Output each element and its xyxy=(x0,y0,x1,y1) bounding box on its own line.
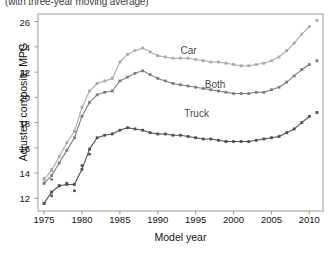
series-marker-truck xyxy=(232,140,235,143)
series-marker-truck xyxy=(240,140,243,143)
series-marker-both xyxy=(164,80,167,83)
series-marker-car xyxy=(278,56,281,59)
series-marker-both xyxy=(111,90,114,93)
series-marker-truck xyxy=(88,148,91,151)
series-marker-car xyxy=(65,141,68,144)
series-marker-both xyxy=(262,91,265,94)
series-marker-car xyxy=(118,61,121,64)
series-marker-car xyxy=(88,90,91,93)
series-marker-both xyxy=(172,82,175,85)
series-marker-both xyxy=(240,92,243,95)
series-marker-car xyxy=(209,61,212,64)
plot-area xyxy=(0,0,333,253)
series-marker-truck xyxy=(209,138,212,141)
series-marker-truck xyxy=(255,139,258,142)
series-marker-car xyxy=(43,178,46,181)
series-marker-both xyxy=(247,92,250,95)
series-marker-car xyxy=(172,57,175,60)
series-marker-both xyxy=(217,90,220,93)
series-marker-both xyxy=(88,101,91,104)
series-marker-truck xyxy=(81,168,84,171)
series-marker-truck xyxy=(43,202,46,205)
series-marker-both xyxy=(141,69,144,72)
series-marker-car xyxy=(262,62,265,65)
series-marker-truck xyxy=(187,135,190,138)
series-marker-both xyxy=(65,149,68,152)
series-marker-car xyxy=(73,130,76,133)
series-marker-both xyxy=(81,115,84,118)
series-marker-truck xyxy=(308,115,311,118)
series-marker-car xyxy=(126,53,129,56)
series-marker-both xyxy=(118,80,121,83)
series-marker-truck xyxy=(164,133,167,136)
raw-data-point xyxy=(50,195,53,198)
series-marker-car xyxy=(202,59,205,62)
series-marker-truck xyxy=(300,121,303,124)
series-marker-both xyxy=(187,85,190,88)
series-marker-truck xyxy=(126,126,129,129)
series-marker-truck xyxy=(172,134,175,137)
series-marker-both xyxy=(300,68,303,71)
series-marker-both xyxy=(149,73,152,76)
series-marker-truck xyxy=(293,128,296,131)
series-marker-both xyxy=(50,174,53,177)
series-marker-truck xyxy=(50,191,53,194)
series-marker-truck xyxy=(179,134,182,137)
series-marker-both xyxy=(73,136,76,139)
series-marker-car xyxy=(149,50,152,53)
series-marker-truck xyxy=(134,128,137,131)
series-marker-both xyxy=(103,91,106,94)
series-marker-truck xyxy=(202,138,205,141)
series-marker-both xyxy=(202,87,205,90)
series-line-truck xyxy=(44,116,309,203)
series-marker-both xyxy=(43,182,46,185)
series-marker-car xyxy=(232,63,235,66)
series-marker-car xyxy=(58,155,61,158)
series-marker-both xyxy=(156,77,159,80)
series-marker-both xyxy=(285,81,288,84)
series-marker-truck xyxy=(141,129,144,132)
series-marker-truck xyxy=(103,134,106,137)
series-marker-car xyxy=(141,47,144,50)
series-marker-truck xyxy=(247,140,250,143)
isolated-point-car xyxy=(316,19,319,22)
series-marker-both xyxy=(255,91,258,94)
series-marker-truck xyxy=(96,136,99,139)
series-marker-car xyxy=(217,61,220,64)
series-marker-truck xyxy=(217,139,220,142)
series-marker-truck xyxy=(111,133,114,136)
series-marker-both xyxy=(209,88,212,91)
series-marker-car xyxy=(194,58,197,61)
series-marker-truck xyxy=(278,135,281,138)
series-marker-truck xyxy=(156,133,159,136)
series-marker-both xyxy=(126,76,129,79)
series-marker-car xyxy=(156,54,159,57)
series-marker-car xyxy=(300,33,303,36)
series-marker-truck xyxy=(270,136,273,139)
series-marker-car xyxy=(96,82,99,85)
series-marker-car xyxy=(111,77,114,80)
series-marker-truck xyxy=(262,138,265,141)
series-marker-car xyxy=(134,49,137,52)
series-marker-both xyxy=(270,88,273,91)
series-marker-car xyxy=(247,64,250,67)
series-marker-both xyxy=(232,92,235,95)
series-marker-car xyxy=(103,80,106,83)
series-marker-truck xyxy=(73,183,76,186)
series-marker-car xyxy=(285,49,288,52)
series-marker-both xyxy=(58,162,61,165)
series-marker-car xyxy=(293,42,296,45)
series-marker-both xyxy=(293,74,296,77)
series-marker-truck xyxy=(225,140,228,143)
series-marker-truck xyxy=(149,131,152,134)
series-marker-car xyxy=(164,56,167,59)
isolated-point-both xyxy=(316,59,319,62)
series-marker-car xyxy=(50,169,53,172)
series-marker-car xyxy=(81,106,84,109)
series-marker-both xyxy=(134,72,137,75)
series-marker-car xyxy=(179,57,182,60)
series-marker-car xyxy=(240,64,243,67)
series-marker-truck xyxy=(58,184,61,187)
series-marker-both xyxy=(179,83,182,86)
raw-data-point xyxy=(73,189,76,192)
